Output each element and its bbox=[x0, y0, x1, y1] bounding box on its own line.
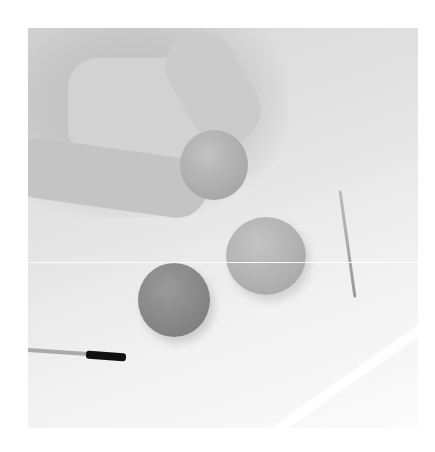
hand bbox=[28, 28, 288, 218]
paintbrush-tip bbox=[86, 351, 126, 362]
clay-ball-light bbox=[226, 217, 306, 295]
photo bbox=[28, 28, 418, 428]
scan-line bbox=[28, 262, 418, 263]
paintbrush-handle bbox=[28, 348, 88, 356]
clay-ball-held bbox=[180, 130, 248, 200]
board-edge bbox=[232, 283, 418, 428]
toothpick bbox=[338, 190, 356, 297]
clay-ball-dark bbox=[138, 263, 210, 337]
